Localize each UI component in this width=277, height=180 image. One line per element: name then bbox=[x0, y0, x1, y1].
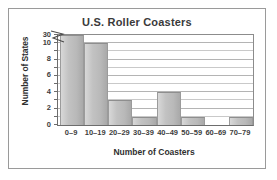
y-axis-tick-label: 6 bbox=[27, 70, 51, 79]
bar bbox=[132, 117, 156, 125]
figure-frame: U.S. Roller Coasters Number of States 02… bbox=[8, 8, 266, 169]
y-axis-tick-label: 10 bbox=[27, 38, 51, 47]
y-axis-tick-label: 0 bbox=[27, 120, 51, 129]
x-axis-tick-label: 50–59 bbox=[181, 128, 202, 137]
bar bbox=[229, 117, 253, 125]
x-axis-tick-label: 10–19 bbox=[85, 128, 106, 137]
bar bbox=[60, 35, 84, 125]
y-axis-tick bbox=[54, 75, 58, 76]
y-axis-tick-label: 2 bbox=[27, 103, 51, 112]
bar bbox=[84, 43, 108, 125]
plot-area bbox=[57, 34, 254, 126]
y-axis-tick-label: 30 bbox=[27, 30, 51, 39]
bar bbox=[157, 92, 181, 125]
chart-title: U.S. Roller Coasters bbox=[9, 16, 265, 28]
y-axis-tick bbox=[54, 91, 58, 92]
y-axis-tick bbox=[54, 116, 58, 117]
x-axis-title: Number of Coasters bbox=[49, 147, 259, 157]
bar bbox=[181, 117, 205, 125]
x-axis-tick-label: 60–69 bbox=[205, 128, 226, 137]
axis-break-icon bbox=[50, 30, 66, 44]
x-axis-tick-label: 0–9 bbox=[65, 128, 78, 137]
y-axis-tick bbox=[54, 59, 58, 60]
y-axis-tick bbox=[54, 108, 58, 109]
y-axis-tick bbox=[54, 99, 58, 100]
bar bbox=[108, 100, 132, 125]
y-axis-tick bbox=[54, 124, 58, 125]
x-axis-tick-label: 20–29 bbox=[109, 128, 130, 137]
y-axis-tick bbox=[54, 83, 58, 84]
y-axis-tick-label: 4 bbox=[27, 87, 51, 96]
y-axis-tick bbox=[54, 67, 58, 68]
x-axis-tick-labels: 0–910–1920–2930–3940–4950–5960–6970–79 bbox=[57, 128, 254, 142]
y-axis-tick bbox=[54, 50, 58, 51]
x-axis-tick-label: 30–39 bbox=[133, 128, 154, 137]
x-axis-tick-label: 70–79 bbox=[230, 128, 251, 137]
y-axis-tick-label: 8 bbox=[27, 54, 51, 63]
bar-series bbox=[58, 35, 253, 125]
x-axis-tick-label: 40–49 bbox=[157, 128, 178, 137]
